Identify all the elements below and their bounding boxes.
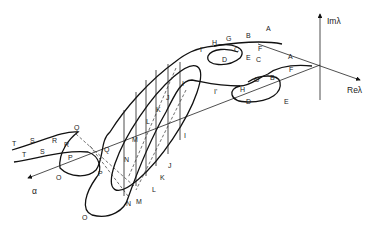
label-M: M <box>132 136 138 143</box>
label-D: D <box>246 98 251 105</box>
eigenvalue-trajectory-diagram: Imλ Reλ α T S R Q T S R P Q P O <box>0 0 376 232</box>
label-T: T <box>22 151 27 158</box>
lower-trajectory <box>14 65 312 216</box>
label-E: E <box>246 54 251 61</box>
label-O: O <box>56 174 62 181</box>
label-R: R <box>52 137 57 144</box>
label-J: J <box>168 162 172 169</box>
label-R: R <box>64 141 69 148</box>
label-I-prime: I' <box>200 46 203 53</box>
label-A: A <box>288 53 293 60</box>
upper-trajectory <box>12 42 282 176</box>
imaginary-axis-label: Imλ <box>327 16 341 26</box>
label-J: J <box>166 94 170 101</box>
label-I: I <box>182 80 184 87</box>
label-I: I <box>184 132 186 139</box>
label-F: F <box>258 45 262 52</box>
label-N: N <box>126 200 131 207</box>
point-labels: T S R Q T S R P Q P O O N N M M L L K K … <box>12 25 293 221</box>
label-G: G <box>254 76 259 83</box>
label-O: O <box>82 214 88 221</box>
label-K: K <box>160 174 165 181</box>
label-H: H <box>240 86 245 93</box>
label-N: N <box>124 156 129 163</box>
label-L: L <box>152 186 156 193</box>
label-Q: Q <box>74 124 80 132</box>
alpha-axis <box>28 65 320 178</box>
label-C: C <box>234 46 239 53</box>
label-K: K <box>156 106 161 113</box>
label-C: C <box>256 56 261 63</box>
label-M: M <box>136 198 142 205</box>
label-Q: Q <box>104 146 110 154</box>
label-P: P <box>98 170 103 177</box>
label-G: G <box>226 35 231 42</box>
label-B: B <box>246 32 251 39</box>
label-P: P <box>68 154 73 161</box>
alpha-axis-label: α <box>32 186 37 196</box>
label-I-prime: I' <box>214 88 217 95</box>
label-L: L <box>146 118 150 125</box>
label-T: T <box>12 140 17 147</box>
cylinder-surface <box>76 55 214 200</box>
label-F: F <box>289 66 293 73</box>
axes: Imλ Reλ α <box>28 14 363 196</box>
label-S: S <box>30 137 35 144</box>
label-B: B <box>270 74 275 81</box>
real-axis-label: Reλ <box>347 85 363 95</box>
label-D: D <box>222 56 227 63</box>
label-H: H <box>212 39 217 46</box>
label-E: E <box>284 98 289 105</box>
label-S: S <box>40 148 45 155</box>
label-A: A <box>266 25 271 32</box>
